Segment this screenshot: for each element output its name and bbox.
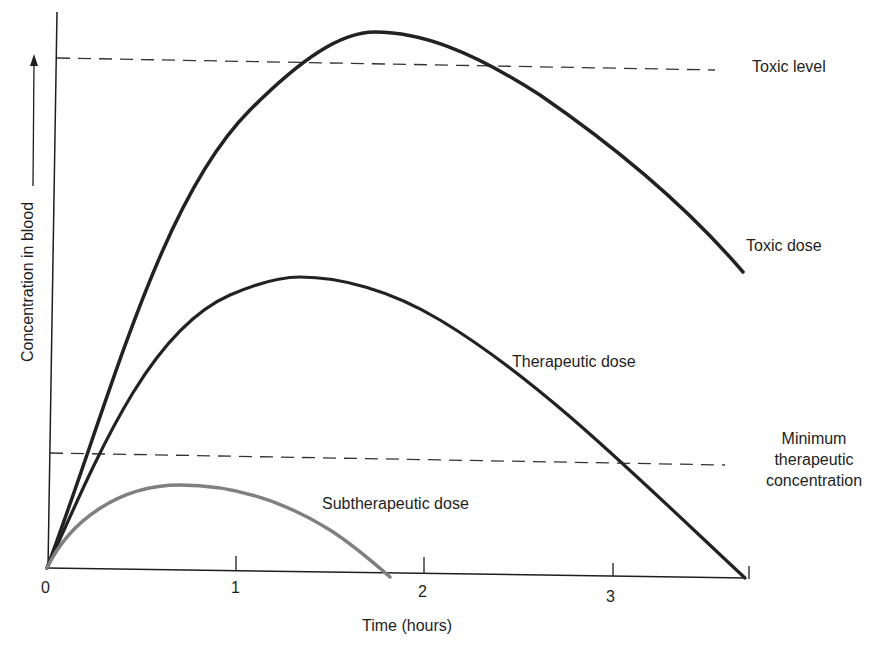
min-therapeutic-label-line2: therapeutic bbox=[748, 449, 880, 470]
toxic-dose-label: Toxic dose bbox=[746, 237, 822, 255]
min-therapeutic-label: Minimum therapeutic concentration bbox=[748, 428, 880, 491]
subtherapeutic-dose-label: Subtherapeutic dose bbox=[322, 495, 469, 513]
arrow-up-icon bbox=[30, 54, 38, 66]
y-axis-label: Concentration in blood bbox=[19, 202, 37, 362]
x-tick-label-1: 1 bbox=[231, 579, 240, 597]
chart-canvas bbox=[0, 0, 889, 655]
min-therapeutic-label-line3: concentration bbox=[748, 470, 880, 491]
toxic-level-label: Toxic level bbox=[752, 58, 826, 76]
therapeutic-dose-curve bbox=[47, 277, 745, 578]
y-axis-arrow-shaft bbox=[33, 62, 34, 186]
therapeutic-dose-label: Therapeutic dose bbox=[512, 353, 636, 371]
x-tick-label-2: 2 bbox=[418, 583, 427, 601]
toxic-level-line bbox=[57, 58, 715, 70]
y-axis bbox=[48, 12, 57, 568]
x-axis bbox=[47, 568, 746, 578]
x-axis-label: Time (hours) bbox=[362, 617, 452, 635]
min-therapeutic-label-line1: Minimum bbox=[748, 428, 880, 449]
x-tick-label-3: 3 bbox=[606, 588, 615, 606]
x-tick-label-0: 0 bbox=[41, 579, 50, 597]
